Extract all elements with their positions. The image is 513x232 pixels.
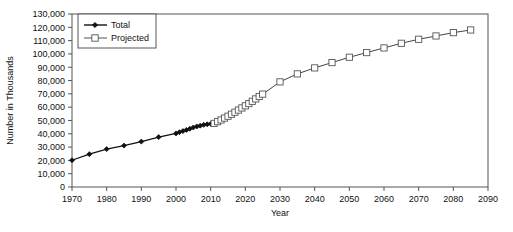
x-axis-title: Year: [271, 208, 289, 218]
data-point-total: [104, 147, 109, 152]
legend-label-total: Total: [111, 20, 130, 30]
data-point-total: [156, 135, 161, 140]
series-total: [70, 121, 217, 163]
x-tick-label: 2040: [305, 194, 325, 204]
y-tick-label: 30,000: [37, 142, 65, 152]
x-tick-label: 2000: [166, 194, 186, 204]
series-projected: [211, 27, 474, 127]
data-point-projected: [260, 91, 266, 97]
data-point-total: [122, 143, 127, 148]
data-point-projected: [92, 35, 98, 41]
data-point-total: [87, 152, 92, 157]
y-tick-label: 110,000: [33, 36, 65, 46]
y-tick-label: 130,000: [32, 9, 65, 19]
line-chart: 010,00020,00030,00040,00050,00060,00070,…: [0, 0, 513, 232]
y-tick-label: 40,000: [37, 129, 65, 139]
x-tick-label: 1970: [62, 194, 82, 204]
data-point-projected: [294, 71, 300, 77]
y-tick-label: 60,000: [37, 102, 65, 112]
y-tick-label: 20,000: [37, 156, 65, 166]
data-point-total: [139, 139, 144, 144]
data-point-projected: [364, 49, 370, 55]
x-tick-label: 2030: [270, 194, 290, 204]
chart-container: 010,00020,00030,00040,00050,00060,00070,…: [0, 0, 513, 232]
data-point-projected: [433, 33, 439, 39]
x-tick-label: 2010: [201, 194, 221, 204]
x-tick-label: 2090: [478, 194, 498, 204]
y-tick-label: 80,000: [37, 76, 65, 86]
y-tick-label: 70,000: [37, 89, 65, 99]
chart-legend: TotalProjected: [78, 14, 156, 48]
y-tick-label: 0: [60, 182, 65, 192]
x-tick-label: 2020: [235, 194, 255, 204]
x-tick-label: 1990: [131, 194, 151, 204]
x-tick-label: 2060: [374, 194, 394, 204]
data-point-projected: [398, 40, 404, 46]
x-tick-label: 2050: [339, 194, 359, 204]
series-path: [214, 30, 471, 123]
data-point-projected: [277, 79, 283, 85]
data-point-projected: [381, 45, 387, 51]
data-point-projected: [468, 27, 474, 33]
y-tick-label: 90,000: [37, 63, 65, 73]
data-point-projected: [312, 65, 318, 71]
x-tick-label: 2070: [409, 194, 429, 204]
data-point-projected: [346, 54, 352, 60]
y-tick-label: 100,000: [32, 49, 65, 59]
y-tick-label: 120,000: [32, 23, 65, 33]
y-axis-title: Number in Thousands: [5, 56, 15, 145]
data-point-projected: [416, 36, 422, 42]
x-tick-label: 2080: [443, 194, 463, 204]
data-point-projected: [450, 30, 456, 36]
data-point-total: [70, 158, 75, 163]
x-tick-label: 1980: [97, 194, 117, 204]
y-tick-label: 10,000: [37, 169, 65, 179]
y-tick-label: 50,000: [37, 116, 65, 126]
data-point-projected: [329, 59, 335, 65]
legend-label-projected: Projected: [111, 33, 149, 43]
